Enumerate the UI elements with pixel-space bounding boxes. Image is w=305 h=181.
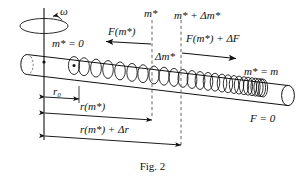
axis-intersection-dot xyxy=(42,60,45,63)
dimension-line-r-m-star-plus-dr xyxy=(45,136,181,145)
label-mass-star-plus-delta: m* + Δm* xyxy=(174,10,220,21)
label-mass-equals-m: m* = m xyxy=(244,66,278,77)
label-force-zero: F = 0 xyxy=(250,113,275,124)
diagram-canvas xyxy=(0,0,305,181)
dimension-line-r-m-star xyxy=(45,113,152,120)
label-force-m-star-plus-df: F(m*) + ΔF xyxy=(186,33,240,44)
label-r-of-m-star: r(m*) xyxy=(80,101,105,112)
force-arrow-right xyxy=(182,53,236,59)
figure-container: ω m* = 0 m* m* + Δm* F(m*) F(m*) + ΔF Δm… xyxy=(0,0,305,181)
label-mass-star: m* xyxy=(144,8,157,19)
label-delta-m-star: Δm* xyxy=(155,51,175,62)
dimension-line-r0 xyxy=(45,86,79,103)
label-r-zero: r₀ xyxy=(53,86,61,97)
label-force-m-star: F(m*) xyxy=(108,26,136,37)
label-mass-zero: m* = 0 xyxy=(52,38,84,49)
force-arrow-left xyxy=(106,42,151,45)
label-omega: ω xyxy=(60,6,68,17)
figure-caption: Fig. 2 xyxy=(0,160,305,172)
label-r-of-m-star-plus-dr: r(m*) + Δr xyxy=(80,124,129,135)
